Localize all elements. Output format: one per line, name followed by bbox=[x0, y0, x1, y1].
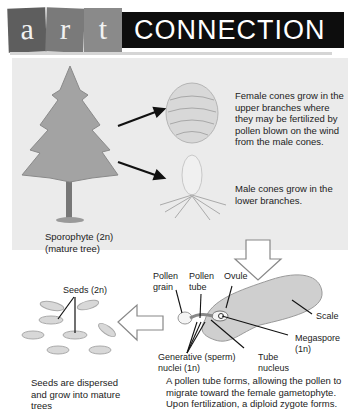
megaspore-label-line1: Megaspore bbox=[295, 333, 340, 344]
male-cone-icon bbox=[160, 155, 226, 220]
pollen-grain-label: Pollen grain bbox=[153, 271, 183, 292]
sporophyte-label-line2: (mature tree) bbox=[45, 243, 113, 255]
scale-label: Scale bbox=[316, 311, 339, 322]
seeds-icon bbox=[22, 298, 117, 354]
generative-label-line2: nuclei (1n) bbox=[158, 363, 236, 374]
sporophyte-label-line1: Sporophyte (2n) bbox=[45, 231, 113, 243]
megaspore-label: Megaspore (1n) bbox=[295, 333, 340, 354]
pine-tree-icon bbox=[22, 66, 118, 223]
seeds-caption: Seeds are dispersed and grow into mature… bbox=[31, 377, 121, 412]
arrow-to-female-cone-icon bbox=[118, 108, 164, 126]
seeds-label: Seeds (2n) bbox=[63, 285, 107, 296]
female-cone-icon bbox=[166, 83, 218, 143]
pollen-tube-label: Pollen tube bbox=[189, 271, 217, 292]
female-cone-description: Female cones grow in the upper branches … bbox=[235, 90, 347, 148]
seed-pointer-lines bbox=[58, 297, 75, 333]
pollination-caption: A pollen tube forms, allowing the pollen… bbox=[166, 375, 346, 410]
tube-label-line2: nucleus bbox=[258, 363, 289, 374]
tube-nucleus-label: Tube nucleus bbox=[258, 352, 289, 373]
male-cone-description: Male cones grow in the lower branches. bbox=[235, 183, 347, 206]
generative-label-line1: Generative (sperm) bbox=[158, 352, 236, 363]
arrow-to-male-cone-icon bbox=[118, 162, 164, 179]
megaspore-label-line2: (1n) bbox=[295, 344, 340, 355]
ovule-label: Ovule bbox=[224, 271, 248, 282]
left-arrow-icon bbox=[118, 305, 163, 340]
generative-nuclei-label: Generative (sperm) nuclei (1n) bbox=[158, 352, 236, 373]
sporophyte-label: Sporophyte (2n) (mature tree) bbox=[45, 231, 113, 254]
tube-label-line1: Tube bbox=[258, 352, 289, 363]
